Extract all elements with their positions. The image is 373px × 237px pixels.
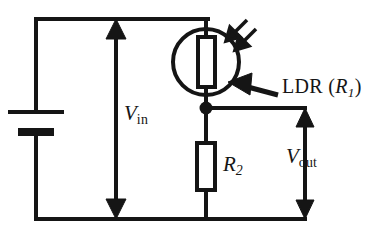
label-vin-symbol: V bbox=[124, 101, 137, 125]
label-r2-subscript: 2 bbox=[236, 163, 243, 178]
label-ldr-subscript: 1 bbox=[348, 85, 355, 100]
r2-body bbox=[197, 143, 215, 190]
label-r2: R2 bbox=[223, 154, 243, 178]
label-ldr-close-paren: ) bbox=[355, 75, 362, 97]
vin-arrowhead-down bbox=[106, 199, 126, 219]
ldr-resistor-body bbox=[198, 37, 215, 87]
label-vin-subscript: in bbox=[137, 112, 148, 127]
label-ldr: LDR (R1) bbox=[282, 76, 362, 99]
label-vout-symbol: V bbox=[286, 144, 299, 168]
vout-arrowhead-down bbox=[296, 200, 314, 219]
label-ldr-text: LDR bbox=[282, 75, 323, 97]
wire-group bbox=[36, 19, 305, 219]
label-vout-subscript: out bbox=[299, 155, 317, 170]
node-dot-junction bbox=[200, 102, 213, 115]
vin-arrowhead-up bbox=[106, 19, 126, 39]
label-vin: Vin bbox=[124, 103, 148, 127]
circuit-diagram: Vin Vout R2 LDR (R1) bbox=[0, 0, 373, 237]
battery-symbol bbox=[8, 112, 64, 132]
r2-symbol bbox=[197, 143, 215, 190]
label-vout: Vout bbox=[286, 146, 317, 170]
label-r2-symbol: R bbox=[223, 152, 236, 176]
circuit-schematic-canvas bbox=[0, 0, 373, 237]
label-ldr-symbol: R bbox=[335, 75, 348, 97]
vin-arrow bbox=[106, 19, 126, 219]
vout-arrowhead-up bbox=[296, 108, 314, 127]
